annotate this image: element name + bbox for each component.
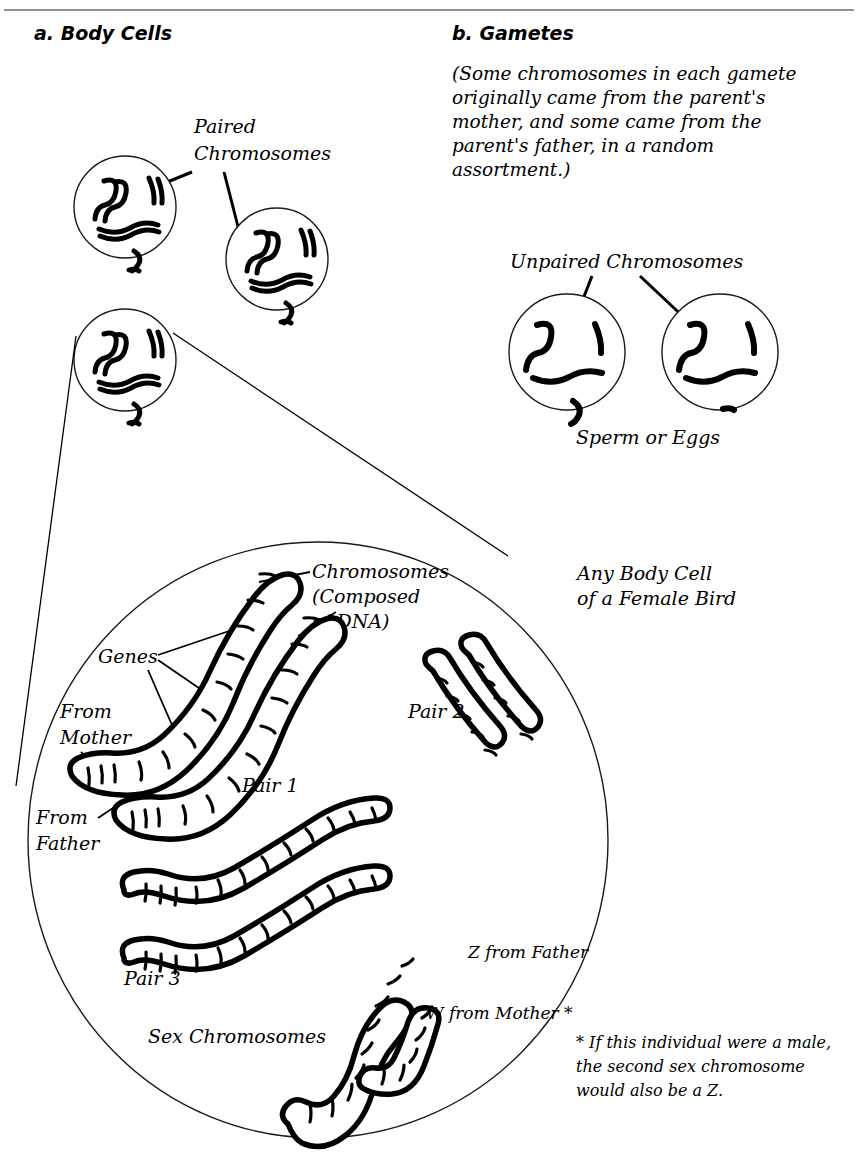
chromosomes-label-line1: Chromosomes (312, 560, 449, 582)
panel-a-title: a. Body Cells (34, 22, 172, 44)
unpaired-chromosomes-label: Unpaired Chromosomes (510, 250, 744, 272)
body-cell-1 (74, 156, 176, 271)
w-from-mother-label: W from Mother * (426, 1003, 573, 1023)
svg-text:mother, and some came from the: mother, and some came from the (452, 111, 762, 132)
z-from-father-label: Z from Father (467, 942, 589, 962)
paired-chromosomes-label-line2: Chromosomes (194, 142, 331, 164)
from-father-label-line2: Father (35, 832, 101, 854)
panel-b-title: b. Gametes (452, 22, 574, 44)
footnote-line-1: * If this individual were a male, (576, 1033, 831, 1052)
from-mother-label-line2: Mother (59, 726, 133, 748)
footnote: * If this individual were a male, the se… (576, 1033, 831, 1100)
paired-chromosomes-label-line1: Paired (193, 115, 256, 137)
pair-2-label: Pair 2 (407, 700, 465, 722)
body-cell-3-magnified-source (74, 309, 176, 424)
chromosome-diagram-figure: a. Body Cells b. Gametes (Some chromosom… (0, 0, 858, 1158)
gamete-cell-2 (662, 294, 778, 410)
chromosomes-label-line2: (Composed (312, 585, 420, 607)
body-cell-2 (226, 208, 328, 323)
sperm-or-eggs-label: Sperm or Eggs (576, 426, 720, 448)
gamete-cell-1 (509, 294, 625, 424)
footnote-line-2: the second sex chromosome (576, 1057, 805, 1076)
sex-chromosomes-label: Sex Chromosomes (148, 1025, 326, 1047)
pair-1-label: Pair 1 (241, 774, 299, 796)
genes-label: Genes (98, 645, 158, 667)
footnote-line-3: would also be a Z. (576, 1081, 723, 1100)
any-body-cell-label-line2: of a Female Bird (577, 587, 736, 609)
svg-text:originally came from the paren: originally came from the parent's (452, 87, 766, 108)
any-body-cell-label-line1: Any Body Cell (575, 562, 712, 584)
svg-text:assortment.): assortment.) (452, 159, 570, 180)
from-mother-label-line1: From (59, 700, 112, 722)
from-father-label-line1: From (35, 806, 88, 828)
pair-3-label: Pair 3 (123, 967, 181, 989)
svg-text:parent's father, in a random: parent's father, in a random (452, 135, 714, 156)
svg-text:(Some chromosomes in each game: (Some chromosomes in each gamete (452, 63, 796, 84)
